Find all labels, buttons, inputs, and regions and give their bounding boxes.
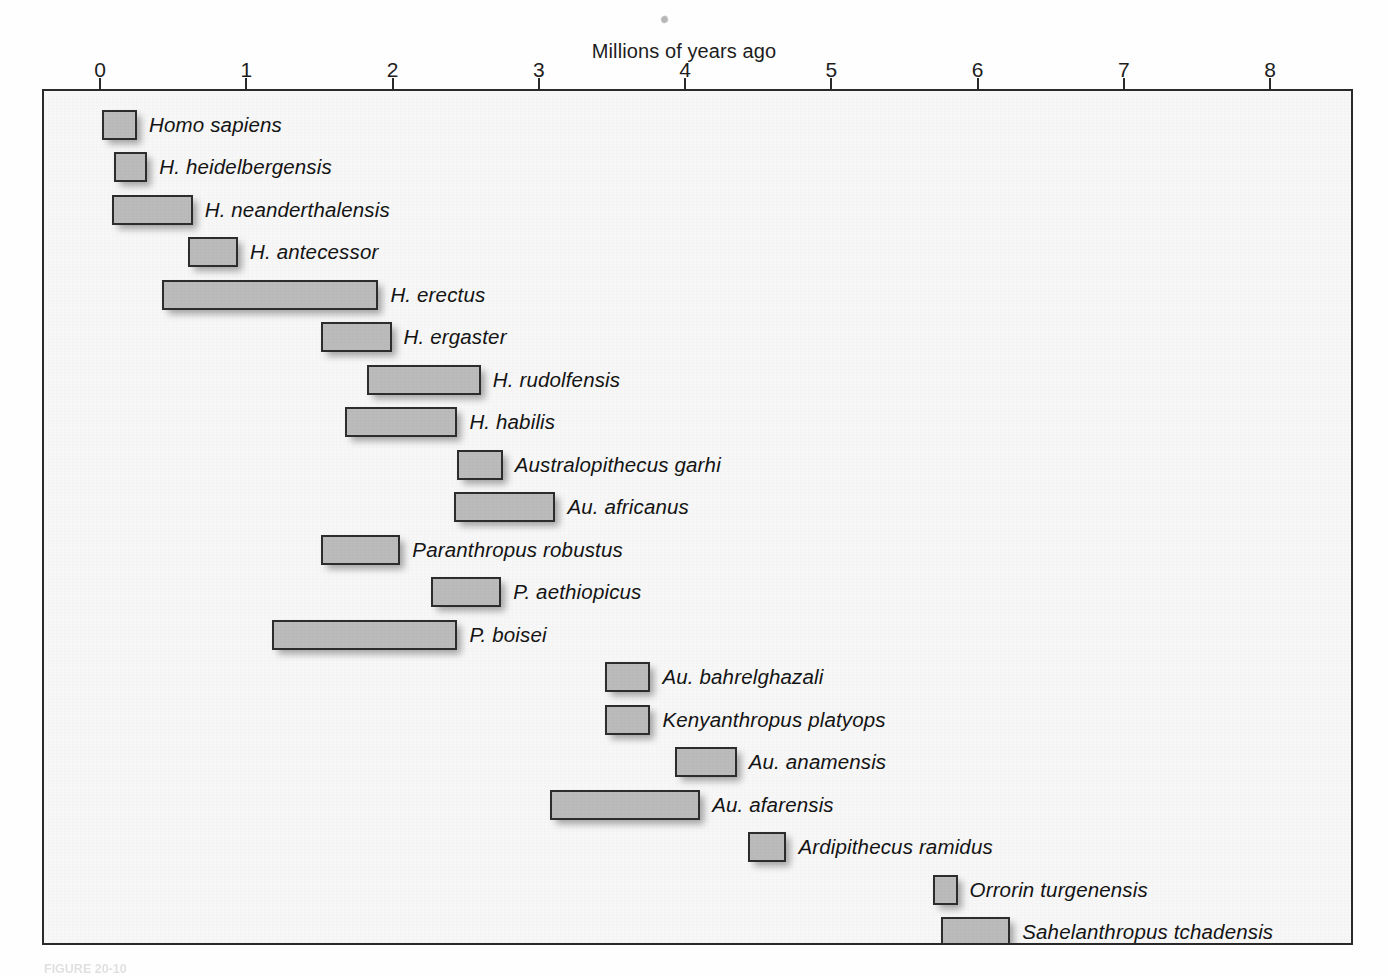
plot-area: Homo sapiensH. heidelbergensisH. neander… xyxy=(42,89,1353,945)
bar-label-au-afarensis: Au. afarensis xyxy=(712,790,834,820)
bar-h-heidelbergensis[interactable] xyxy=(114,152,148,182)
bar-label-paranthropus-robustus: Paranthropus robustus xyxy=(412,535,623,565)
bar-h-antecessor[interactable] xyxy=(188,237,238,267)
bar-australopithecus-garhi[interactable] xyxy=(457,450,502,480)
bar-h-ergaster[interactable] xyxy=(321,322,391,352)
bar-label-h-neanderthalensis: H. neanderthalensis xyxy=(205,195,390,225)
bar-label-au-bahrelghazali: Au. bahrelghazali xyxy=(662,662,823,692)
bar-au-bahrelghazali[interactable] xyxy=(605,662,650,692)
bar-label-h-antecessor: H. antecessor xyxy=(250,237,378,267)
bar-paranthropus-robustus[interactable] xyxy=(321,535,400,565)
figure-caption: FIGURE 20-10 xyxy=(44,962,744,976)
bar-label-h-rudolfensis: H. rudolfensis xyxy=(493,365,620,395)
bar-label-sahelanthropus-tchadensis: Sahelanthropus tchadensis xyxy=(1022,917,1273,945)
bar-p-aethiopicus[interactable] xyxy=(431,577,501,607)
bar-label-au-anamensis: Au. anamensis xyxy=(749,747,887,777)
bar-label-p-aethiopicus: P. aethiopicus xyxy=(513,577,641,607)
bar-sahelanthropus-tchadensis[interactable] xyxy=(941,917,1010,945)
bar-ardipithecus-ramidus[interactable] xyxy=(748,832,786,862)
bar-label-h-habilis: H. habilis xyxy=(469,407,555,437)
bar-au-afarensis[interactable] xyxy=(550,790,701,820)
bar-h-habilis[interactable] xyxy=(345,407,458,437)
bar-label-h-ergaster: H. ergaster xyxy=(404,322,507,352)
bar-orrorin-turgenensis[interactable] xyxy=(933,875,958,905)
bar-label-au-africanus: Au. africanus xyxy=(567,492,689,522)
bar-label-kenyanthropus-platyops: Kenyanthropus platyops xyxy=(662,705,885,735)
bar-homo-sapiens[interactable] xyxy=(102,110,137,140)
bar-label-ardipithecus-ramidus: Ardipithecus ramidus xyxy=(798,832,992,862)
bar-label-h-erectus: H. erectus xyxy=(390,280,485,310)
bar-label-orrorin-turgenensis: Orrorin turgenensis xyxy=(970,875,1148,905)
bar-label-homo-sapiens: Homo sapiens xyxy=(149,110,282,140)
figure-hominin-timeline: Millions of years ago 012345678 Homo sap… xyxy=(0,0,1388,976)
bar-label-p-boisei: P. boisei xyxy=(469,620,546,650)
bar-h-rudolfensis[interactable] xyxy=(367,365,481,395)
bar-kenyanthropus-platyops[interactable] xyxy=(605,705,650,735)
bar-label-australopithecus-garhi: Australopithecus garhi xyxy=(515,450,721,480)
bar-au-africanus[interactable] xyxy=(454,492,555,522)
bar-h-erectus[interactable] xyxy=(162,280,378,310)
bar-label-h-heidelbergensis: H. heidelbergensis xyxy=(159,152,332,182)
bar-p-boisei[interactable] xyxy=(272,620,458,650)
bar-au-anamensis[interactable] xyxy=(675,747,736,777)
bar-h-neanderthalensis[interactable] xyxy=(112,195,192,225)
scan-artifact-smudge xyxy=(660,15,669,24)
